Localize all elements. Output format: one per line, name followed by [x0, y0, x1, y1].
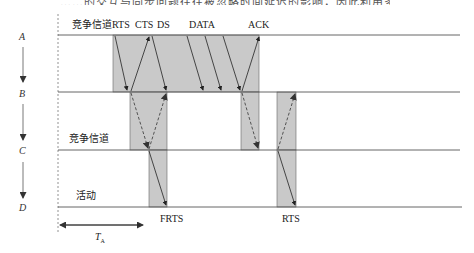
label-rts-bottom: RTS [282, 214, 300, 224]
timing-diagram-canvas [0, 0, 474, 253]
label-rts: RTS [112, 20, 130, 30]
c-d-arrows [149, 151, 295, 205]
shade-b-c-cts-ds [130, 92, 167, 150]
node-label-b: B [19, 89, 25, 99]
label-ack: ACK [248, 20, 269, 30]
node-label-c: C [19, 146, 26, 156]
label-cts: CTS [135, 20, 153, 30]
label-ds: DS [157, 20, 170, 30]
label-active: 活动 [76, 191, 96, 201]
label-contention-channel-mid: 竞争信道 [69, 134, 109, 144]
label-data: DATA [189, 20, 215, 30]
label-ta-interval: TA [95, 232, 105, 244]
label-frts: FRTS [160, 214, 183, 224]
shade-a-b-exchange [113, 35, 259, 92]
tmac-frts-timing-diagram: ……的交互与同步问题往往被忽略时间延迟的影响，因此利用多跳信道，在部分是依照组织… [0, 0, 474, 253]
label-contention-channel-top: 竞争信道 [72, 20, 112, 30]
node-label-d: D [19, 203, 26, 213]
shaded-busy-regions [113, 35, 296, 207]
ta-subscript: A [101, 238, 105, 244]
node-label-a: A [19, 32, 25, 42]
